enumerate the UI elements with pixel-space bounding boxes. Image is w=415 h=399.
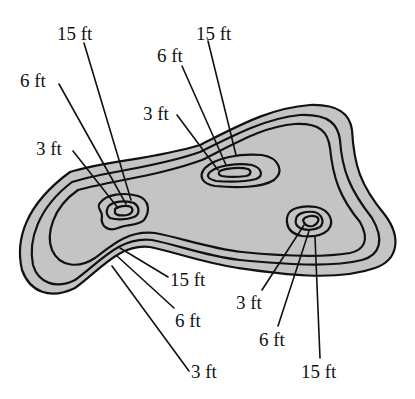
label-upper-mid-15ft: 15 ft xyxy=(196,24,231,43)
label-lower-right-6ft: 6 ft xyxy=(259,330,285,349)
label-lower-left-3ft: 3 ft xyxy=(191,362,217,381)
label-upper-left-6ft: 6 ft xyxy=(20,71,46,90)
label-upper-mid-6ft: 6 ft xyxy=(157,46,183,65)
label-lower-left-15ft: 15 ft xyxy=(170,270,205,289)
contour-map xyxy=(0,0,415,399)
label-upper-left-3ft: 3 ft xyxy=(36,139,62,158)
leader-lower-left-15 xyxy=(120,248,168,277)
label-lower-right-3ft: 3 ft xyxy=(236,293,262,312)
label-lower-left-6ft: 6 ft xyxy=(175,311,201,330)
label-upper-left-15ft: 15 ft xyxy=(57,24,92,43)
pool-depth-diagram: 15 ft 6 ft 3 ft 15 ft 6 ft 3 ft 15 ft 6 … xyxy=(0,0,415,399)
label-upper-mid-3ft: 3 ft xyxy=(143,104,169,123)
label-lower-right-15ft: 15 ft xyxy=(301,362,336,381)
